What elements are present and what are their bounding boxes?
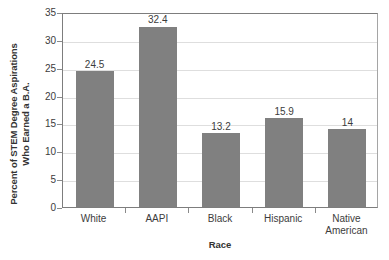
x-axis-tick-label-line: White	[62, 213, 125, 225]
bar	[265, 118, 303, 207]
bars-layer: 24.532.413.215.914	[63, 14, 377, 207]
x-axis-tick-mark	[125, 208, 126, 213]
y-axis-tick-label: 15	[30, 119, 56, 129]
bar-slot: 13.2	[189, 14, 252, 207]
y-axis-tick-mark	[57, 69, 62, 70]
x-axis-tick-mark	[315, 208, 316, 213]
y-axis-tick-mark	[57, 180, 62, 181]
x-axis-tick-label-line: Native	[315, 213, 378, 225]
x-axis-tick-mark	[252, 208, 253, 213]
y-axis-tick-label: 10	[30, 147, 56, 157]
x-axis-tick-label-line: Hispanic	[252, 213, 315, 225]
y-axis-tick-labels: 05101520253035	[30, 13, 56, 208]
plot-area: 24.532.413.215.914	[62, 13, 378, 208]
x-axis-tick-label: Hispanic	[252, 213, 315, 225]
y-axis-tick-mark	[57, 152, 62, 153]
x-axis-tick-label: White	[62, 213, 125, 225]
y-axis-title-line-1: Percent of STEM Degree Aspirations	[8, 43, 21, 204]
bar	[76, 71, 114, 208]
x-axis-tick-label: Black	[188, 213, 251, 225]
bar-slot: 14	[316, 14, 379, 207]
y-axis-tick-mark	[57, 124, 62, 125]
bar-slot: 32.4	[126, 14, 189, 207]
bar	[139, 27, 177, 208]
x-axis-title: Race	[62, 239, 378, 250]
y-axis-tick-label: 20	[30, 92, 56, 102]
x-axis-tick-label-line: Black	[188, 213, 251, 225]
bar	[328, 129, 366, 207]
x-axis-tick-label-line: AAPI	[125, 213, 188, 225]
bar-value-label: 24.5	[85, 59, 104, 70]
x-axis-tick-label-line: American	[315, 225, 378, 237]
bar-value-label: 13.2	[211, 121, 230, 132]
y-axis-tick-mark	[57, 97, 62, 98]
y-axis-tick-label: 30	[30, 36, 56, 46]
x-axis-tick-label: NativeAmerican	[315, 213, 378, 237]
x-axis-tick-label: AAPI	[125, 213, 188, 225]
x-axis-tick-mark	[188, 208, 189, 213]
bar	[202, 133, 240, 207]
y-axis-tick-mark	[57, 41, 62, 42]
y-axis-tick-label: 35	[30, 8, 56, 18]
y-axis-tick-mark	[57, 13, 62, 14]
bar-value-label: 32.4	[148, 14, 167, 25]
y-axis-tick-label: 0	[30, 203, 56, 213]
bar-value-label: 15.9	[274, 106, 293, 117]
bar-chart-figure: Percent of STEM Degree Aspirations Who E…	[0, 0, 389, 260]
bar-slot: 15.9	[253, 14, 316, 207]
x-axis-tick-labels: WhiteAAPIBlackHispanicNativeAmerican	[62, 213, 378, 241]
y-axis-tick-mark	[57, 208, 62, 209]
bar-value-label: 14	[342, 117, 353, 128]
bar-slot: 24.5	[63, 14, 126, 207]
y-axis-tick-label: 5	[30, 175, 56, 185]
y-axis-tick-label: 25	[30, 64, 56, 74]
